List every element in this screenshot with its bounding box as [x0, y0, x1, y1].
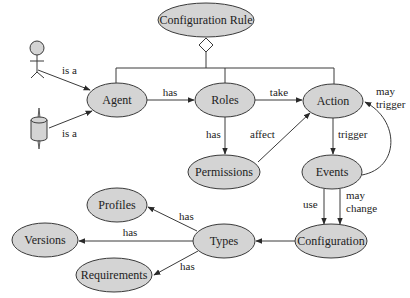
node-versions: Versions	[12, 223, 78, 257]
human-actor-icon	[30, 41, 44, 78]
edge-action-events: trigger	[333, 118, 368, 154]
concept-diagram: is a is a has take has affect trigger ma…	[0, 0, 410, 298]
node-profiles: Profiles	[87, 188, 147, 222]
node-requirements: Requirements	[76, 258, 152, 292]
node-label: Configuration Rule	[160, 13, 253, 27]
edge-types-profiles: has	[148, 207, 197, 231]
node-label: Types	[210, 234, 239, 248]
edge-permissions-action: affect	[250, 113, 310, 162]
edge-label: has	[123, 226, 138, 238]
node-label: Profiles	[98, 198, 136, 212]
edge-label: change	[346, 202, 377, 214]
edge-label: has	[180, 260, 195, 272]
edge-events-configuration-use: use	[303, 189, 324, 224]
edge-roles-permissions: has	[206, 117, 225, 154]
machine-actor-icon	[31, 108, 47, 149]
edge-label: trigger	[338, 128, 368, 140]
node-label: Agent	[102, 93, 132, 107]
node-label: Permissions	[195, 165, 253, 179]
aggregation-diamond-icon	[199, 38, 213, 52]
node-configuration-rule: Configuration Rule	[158, 3, 254, 37]
edge-label: may	[376, 85, 395, 97]
edge-label: take	[270, 86, 288, 98]
node-types: Types	[193, 224, 255, 258]
edge-label: has	[179, 210, 194, 222]
node-configuration: Configuration	[295, 224, 367, 258]
node-agent: Agent	[87, 83, 147, 117]
edge-label: use	[303, 198, 318, 210]
node-label: Roles	[211, 93, 239, 107]
edge-label: is a	[62, 64, 77, 76]
edge-types-requirements: has	[154, 251, 198, 275]
edge-label: trigger	[376, 98, 406, 110]
edge-machine-agent: is a	[49, 111, 92, 139]
node-events: Events	[302, 155, 362, 189]
node-roles: Roles	[195, 83, 255, 117]
node-label: Events	[316, 165, 349, 179]
edge-roles-action: take	[255, 86, 302, 100]
edge-human-agent: is a	[38, 64, 90, 90]
edge-agent-roles: has	[147, 86, 194, 100]
edge-label: has	[163, 86, 178, 98]
edge-types-versions: has	[79, 226, 193, 241]
node-label: Requirements	[81, 268, 148, 282]
aggregation-connector	[116, 38, 334, 84]
edge-label: has	[206, 128, 221, 140]
edge-events-action-loop: may trigger	[362, 85, 406, 175]
edge-label: is a	[62, 127, 77, 139]
node-label: Action	[317, 94, 350, 108]
node-label: Configuration	[297, 234, 364, 248]
node-action: Action	[303, 84, 363, 118]
node-label: Versions	[24, 233, 66, 247]
edge-label: may	[346, 189, 365, 201]
node-permissions: Permissions	[188, 155, 260, 189]
edge-label: affect	[250, 128, 275, 140]
edge-events-configuration-change: may change	[340, 189, 377, 224]
